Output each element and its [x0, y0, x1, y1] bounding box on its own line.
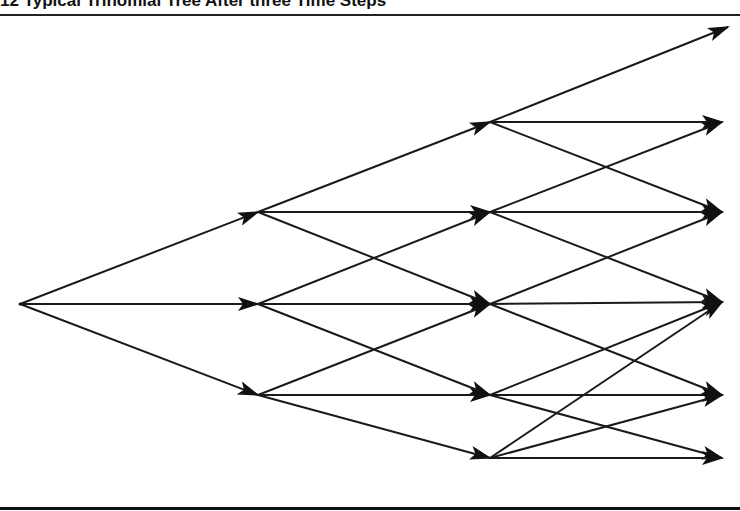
trinomial-tree-diagram	[0, 0, 740, 511]
tree-edge-b2-c3	[490, 302, 722, 304]
tree-node-n0	[19, 303, 22, 306]
tree-edge-a0-b0	[258, 122, 490, 212]
tree-edge-n0-a2	[20, 304, 258, 395]
tree-edge-a2-b4	[258, 395, 490, 458]
tree-nodes	[19, 303, 22, 306]
tree-edge-b0-c0	[490, 27, 728, 122]
tree-edges	[20, 27, 728, 458]
tree-edge-n0-a0	[20, 212, 258, 304]
